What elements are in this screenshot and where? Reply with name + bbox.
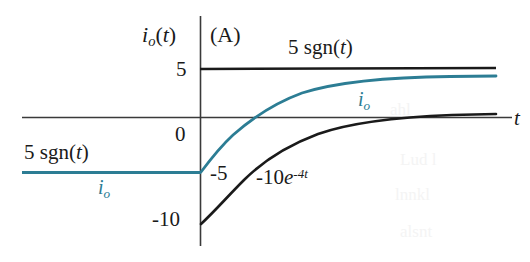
annotation-sgn-top: 5 sgn(t): [288, 35, 353, 60]
y-tick-0: 0: [175, 122, 186, 147]
annotation-exp-coef: -10: [256, 165, 284, 189]
annotation-io-right-sub: o: [364, 98, 371, 113]
annotation-io-right: io: [358, 88, 370, 114]
y-tick-neg5: -5: [210, 161, 228, 186]
figure-canvas: ahl Lud l lnnkl alsnt io(t) (A) 5 sgn(t)…: [0, 0, 530, 262]
annotation-sgn-left-text: 5 sgn(: [24, 140, 76, 164]
annotation-sgn-top-text: 5 sgn(: [288, 35, 340, 59]
y-tick-neg10: -10: [152, 207, 180, 232]
annotation-io-left-sub: o: [104, 186, 111, 201]
annotation-exp-base: e: [284, 165, 293, 189]
annotation-sgn-left: 5 sgn(t): [24, 140, 89, 165]
annotation-sgn-top-close: ): [346, 35, 353, 59]
y-axis-label-arg: (t): [155, 22, 176, 47]
plot-svg: [0, 0, 530, 262]
series-io-positive-time: [201, 76, 496, 172]
annotation-sgn-left-close: ): [82, 140, 89, 164]
series-exponential: [201, 114, 496, 224]
annotation-exponential: -10e-4t: [256, 165, 308, 190]
y-tick-5: 5: [176, 57, 187, 82]
x-axis-label: t: [514, 106, 520, 131]
annotation-exp-power: -4t: [293, 166, 307, 181]
annotation-io-left: io: [98, 176, 110, 202]
y-axis-label: io(t): [142, 22, 176, 50]
unit-label: (A): [210, 22, 241, 48]
series-sgn-positive: [200, 68, 496, 69]
